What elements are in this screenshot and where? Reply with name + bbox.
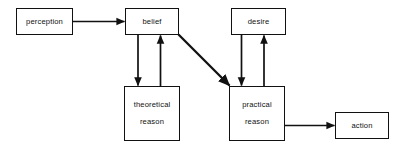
node-practical-reason-label-line1: practical — [242, 101, 272, 109]
node-action[interactable]: action — [335, 112, 389, 139]
node-practical-reason[interactable]: practical reason — [229, 86, 285, 141]
node-action-label: action — [351, 122, 372, 130]
edge-belief-to-practical — [179, 35, 230, 86]
node-belief-label: belief — [142, 18, 161, 26]
node-belief[interactable]: belief — [125, 8, 179, 35]
node-perception[interactable]: perception — [16, 8, 73, 35]
node-desire-label: desire — [248, 18, 270, 26]
node-perception-label: perception — [26, 18, 63, 26]
node-theoretical-reason-label-line2: reason — [140, 118, 164, 126]
diagram-canvas: perception belief desire theoretical rea… — [0, 0, 408, 152]
node-desire[interactable]: desire — [231, 8, 286, 35]
node-practical-reason-label-line2: reason — [245, 118, 269, 126]
node-theoretical-reason[interactable]: theoretical reason — [124, 86, 180, 141]
node-theoretical-reason-label-line1: theoretical — [134, 101, 171, 109]
